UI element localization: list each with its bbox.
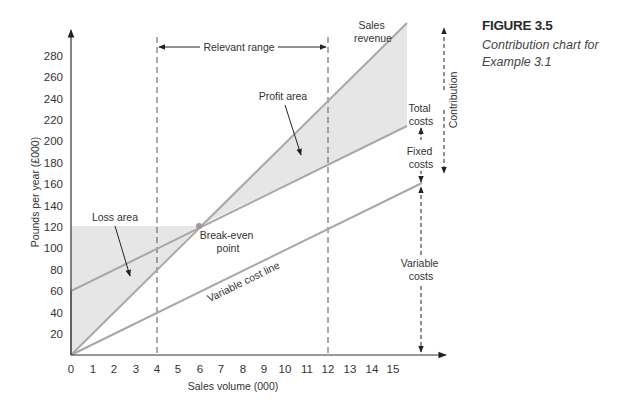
sales-revenue-label: Sales revenue — [354, 19, 392, 44]
svg-text:180: 180 — [44, 157, 63, 169]
break-even-label: Break-even point — [200, 229, 257, 254]
svg-text:7: 7 — [218, 363, 224, 375]
svg-text:80: 80 — [50, 264, 63, 276]
svg-text:9: 9 — [261, 363, 267, 375]
fixed-costs-label: Fixed costs — [407, 145, 436, 170]
svg-text:1: 1 — [90, 363, 96, 375]
loss-area-label: Loss area — [92, 211, 138, 223]
total-costs-line — [71, 126, 407, 291]
figure-caption: Contribution chart for Example 3.1 — [482, 37, 632, 71]
svg-text:2: 2 — [111, 363, 117, 375]
svg-text:15: 15 — [387, 363, 400, 375]
svg-text:5: 5 — [175, 363, 181, 375]
svg-text:12: 12 — [322, 363, 335, 375]
svg-text:3: 3 — [133, 363, 139, 375]
contribution-label: Contribution — [447, 72, 459, 129]
total-costs-label: Total costs — [408, 102, 433, 127]
svg-text:0: 0 — [68, 363, 74, 375]
svg-text:10: 10 — [279, 363, 292, 375]
figure-caption-line2: Example 3.1 — [482, 54, 632, 71]
variable-costs-label: Variable costs — [401, 257, 442, 282]
svg-text:40: 40 — [50, 307, 63, 319]
svg-text:100: 100 — [44, 242, 63, 254]
svg-text:11: 11 — [301, 363, 313, 375]
svg-text:4: 4 — [154, 363, 161, 375]
svg-text:140: 140 — [44, 200, 63, 212]
x-tick-labels: 0 1 2 3 4 5 6 7 8 9 10 11 12 13 14 15 — [68, 363, 400, 375]
svg-text:220: 220 — [44, 114, 63, 126]
svg-text:280: 280 — [44, 50, 63, 62]
svg-text:160: 160 — [44, 178, 63, 190]
svg-text:240: 240 — [44, 93, 63, 105]
svg-text:14: 14 — [366, 363, 379, 375]
x-axis-title: Sales volume (000) — [188, 380, 278, 392]
sales-revenue-line — [71, 23, 407, 355]
svg-text:13: 13 — [344, 363, 357, 375]
y-axis-title: Pounds per year (£000) — [29, 137, 41, 247]
svg-text:60: 60 — [50, 285, 63, 297]
svg-text:8: 8 — [240, 363, 246, 375]
svg-text:260: 260 — [44, 71, 63, 83]
svg-text:6: 6 — [197, 363, 203, 375]
svg-text:200: 200 — [44, 135, 63, 147]
variable-cost-line-label: Variable cost line — [205, 259, 282, 305]
profit-area-label: Profit area — [259, 90, 308, 102]
figure-title: FIGURE 3.5 — [482, 18, 553, 33]
svg-text:20: 20 — [50, 328, 63, 340]
relevant-range-label: Relevant range — [203, 41, 274, 53]
y-tick-labels: 20 40 60 80 100 120 140 160 180 200 220 … — [44, 50, 63, 340]
svg-text:120: 120 — [44, 221, 63, 233]
figure-caption-line1: Contribution chart for — [482, 37, 632, 54]
